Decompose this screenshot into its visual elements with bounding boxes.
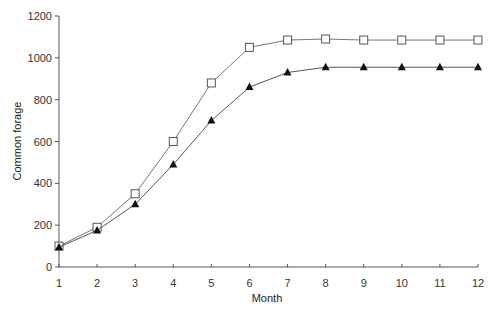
y-axis-title: Common forage <box>11 102 23 181</box>
triangle-marker <box>207 116 215 124</box>
triangle-marker <box>398 63 406 71</box>
square-marker <box>169 138 177 146</box>
square-marker <box>398 36 406 44</box>
square-marker <box>284 36 292 44</box>
x-tick-label: 2 <box>94 277 100 289</box>
x-tick-label: 6 <box>246 277 252 289</box>
x-tick-label: 1 <box>56 277 62 289</box>
x-axis-title: Month <box>252 292 283 304</box>
series-line <box>59 67 478 247</box>
series-layer <box>55 35 482 250</box>
triangle-marker <box>360 63 368 71</box>
square-marker <box>207 79 215 87</box>
square-marker <box>436 36 444 44</box>
x-tick-label: 8 <box>323 277 329 289</box>
triangle-marker <box>322 63 330 71</box>
y-tick-label: 400 <box>34 177 52 189</box>
series-2 <box>55 63 482 250</box>
x-tick-label: 11 <box>434 277 445 289</box>
series-line <box>59 39 478 246</box>
x-tick-label: 7 <box>284 277 290 289</box>
y-tick-label: 800 <box>34 94 52 106</box>
x-tick-label: 4 <box>170 277 176 289</box>
y-tick-label: 200 <box>34 219 52 231</box>
y-tick-label: 600 <box>34 136 52 148</box>
y-tick-label: 1200 <box>28 10 52 22</box>
x-tick-label: 9 <box>361 277 367 289</box>
x-tick-label: 3 <box>132 277 138 289</box>
y-axis: 020040060080010001200 <box>28 10 59 273</box>
x-tick-label: 5 <box>208 277 214 289</box>
triangle-marker <box>436 63 444 71</box>
square-marker <box>474 36 482 44</box>
square-marker <box>245 43 253 51</box>
x-axis: 123456789101112 <box>56 264 484 289</box>
square-marker <box>360 36 368 44</box>
square-marker <box>322 35 330 43</box>
y-tick-label: 1000 <box>28 52 52 64</box>
triangle-marker <box>474 63 482 71</box>
x-tick-label: 10 <box>396 277 408 289</box>
y-tick-label: 0 <box>46 261 52 273</box>
x-tick-label: 12 <box>472 277 484 289</box>
square-marker <box>131 190 139 198</box>
line-chart: 020040060080010001200 123456789101112 Co… <box>0 0 496 318</box>
